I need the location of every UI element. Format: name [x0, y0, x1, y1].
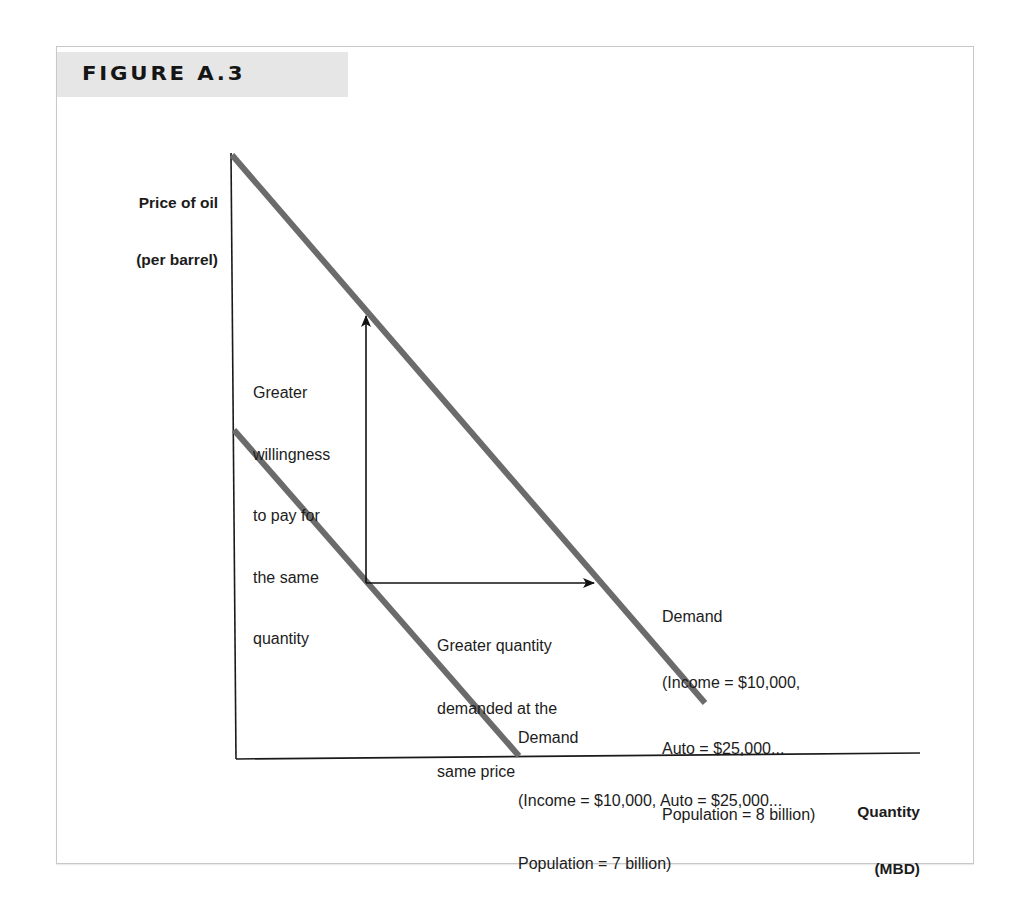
demand-low-label: Demand (Income = $10,000, Auto = $25,000…	[518, 685, 782, 895]
annotation-line: Greater quantity	[437, 635, 557, 656]
curve-label-line: Demand	[662, 606, 815, 628]
annotation-line: to pay for	[253, 506, 330, 527]
vertical-arrow-label: Greater willingness to pay for the same …	[253, 342, 330, 670]
y-axis	[231, 153, 236, 759]
y-axis-label-line: (per barrel)	[136, 250, 218, 269]
annotation-line: the same	[253, 568, 330, 589]
annotation-line: Greater	[253, 383, 330, 404]
annotation-line: quantity	[253, 629, 330, 650]
x-axis-label: Quantity (MBD)	[857, 764, 920, 897]
y-axis-label-line: Price of oil	[136, 193, 218, 212]
annotation-line: willingness	[253, 445, 330, 466]
curve-label-line: Demand	[518, 727, 782, 748]
y-axis-label: Price of oil (per barrel)	[136, 155, 218, 288]
x-axis-label-line: (MBD)	[857, 859, 920, 878]
x-axis-label-line: Quantity	[857, 802, 920, 821]
curve-label-line: Population = 7 billion)	[518, 853, 782, 874]
curve-label-line: (Income = $10,000, Auto = $25,000...	[518, 790, 782, 811]
